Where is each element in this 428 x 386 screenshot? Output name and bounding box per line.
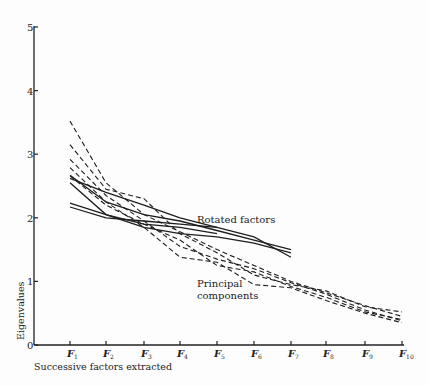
x-axis-title: Successive factors extracted bbox=[34, 361, 172, 372]
scree-plot: 012345 F1F2F3F4F5F6F7F8F9F10 Successive … bbox=[0, 0, 428, 386]
y-tick-label: 0 bbox=[27, 340, 33, 351]
y-tick-label: 1 bbox=[27, 276, 33, 287]
y-tick-label: 3 bbox=[27, 149, 33, 160]
x-tick-label: F7 bbox=[287, 348, 299, 360]
x-tick-label: F2 bbox=[102, 348, 114, 360]
x-tick-label: F9 bbox=[361, 348, 373, 360]
principal-components-label-1: Principal bbox=[197, 278, 243, 289]
x-tick-label: F4 bbox=[176, 348, 188, 360]
x-tick-label: F3 bbox=[140, 348, 152, 360]
x-tick-label: F10 bbox=[398, 348, 414, 360]
x-tick-label: F1 bbox=[66, 348, 78, 360]
y-axis-title: Eigenvalues bbox=[15, 281, 26, 340]
x-tick-label: F6 bbox=[250, 348, 262, 360]
x-tick-label: F5 bbox=[213, 348, 225, 360]
rotated-factors-label: Rotated factors bbox=[197, 214, 275, 225]
y-tick-label: 2 bbox=[27, 213, 33, 224]
y-tick-label: 4 bbox=[27, 86, 33, 97]
rotated-factor-line bbox=[70, 203, 217, 234]
y-tick-label: 5 bbox=[27, 22, 33, 33]
principal-components-label-2: components bbox=[197, 290, 258, 301]
axes: 012345 F1F2F3F4F5F6F7F8F9F10 Successive … bbox=[15, 22, 414, 372]
x-tick-label: F8 bbox=[322, 348, 334, 360]
